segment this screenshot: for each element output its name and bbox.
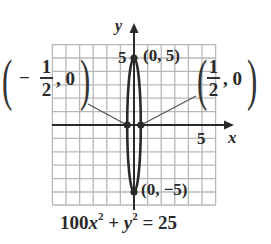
left-numerator: 1 xyxy=(42,57,52,76)
eq-rhs: 25 xyxy=(158,212,177,233)
y-tick-label: 5 xyxy=(118,48,127,68)
left-sign: − xyxy=(19,67,30,89)
left-tail: , 0 xyxy=(56,68,75,90)
right-tail: , 0 xyxy=(223,68,242,90)
point-label-top: (0, 5) xyxy=(143,46,180,66)
point-bottom xyxy=(130,188,137,195)
point-right xyxy=(137,121,144,128)
ellipse-plot xyxy=(0,0,271,244)
eq-y-exp: 2 xyxy=(132,210,138,222)
y-axis-arrow-icon xyxy=(130,23,139,33)
right-numerator: 1 xyxy=(209,57,219,76)
eq-x: x xyxy=(89,212,99,233)
eq-equals: = xyxy=(143,212,154,233)
eq-x-exp: 2 xyxy=(98,210,104,222)
right-fraction: 1 2 xyxy=(207,57,220,99)
equation-caption: 100x2 + y2 = 25 xyxy=(60,212,177,234)
right-paren-close: ) xyxy=(247,52,257,108)
left-paren-open: ( xyxy=(2,52,12,108)
eq-coef: 100 xyxy=(60,212,89,233)
left-paren-close: ) xyxy=(80,52,90,108)
right-paren-open: ( xyxy=(197,52,207,108)
point-top xyxy=(130,54,137,61)
x-axis-label: x xyxy=(228,128,237,148)
eq-plus: + xyxy=(108,212,119,233)
left-denominator: 2 xyxy=(42,80,52,99)
y-axis-label: y xyxy=(115,17,122,35)
left-fraction: 1 2 xyxy=(40,57,53,99)
point-label-bottom: (0, −5) xyxy=(141,180,188,200)
point-left xyxy=(124,121,131,128)
x-tick-label: 5 xyxy=(197,129,206,149)
eq-y: y xyxy=(124,212,132,233)
right-denominator: 2 xyxy=(209,80,219,99)
